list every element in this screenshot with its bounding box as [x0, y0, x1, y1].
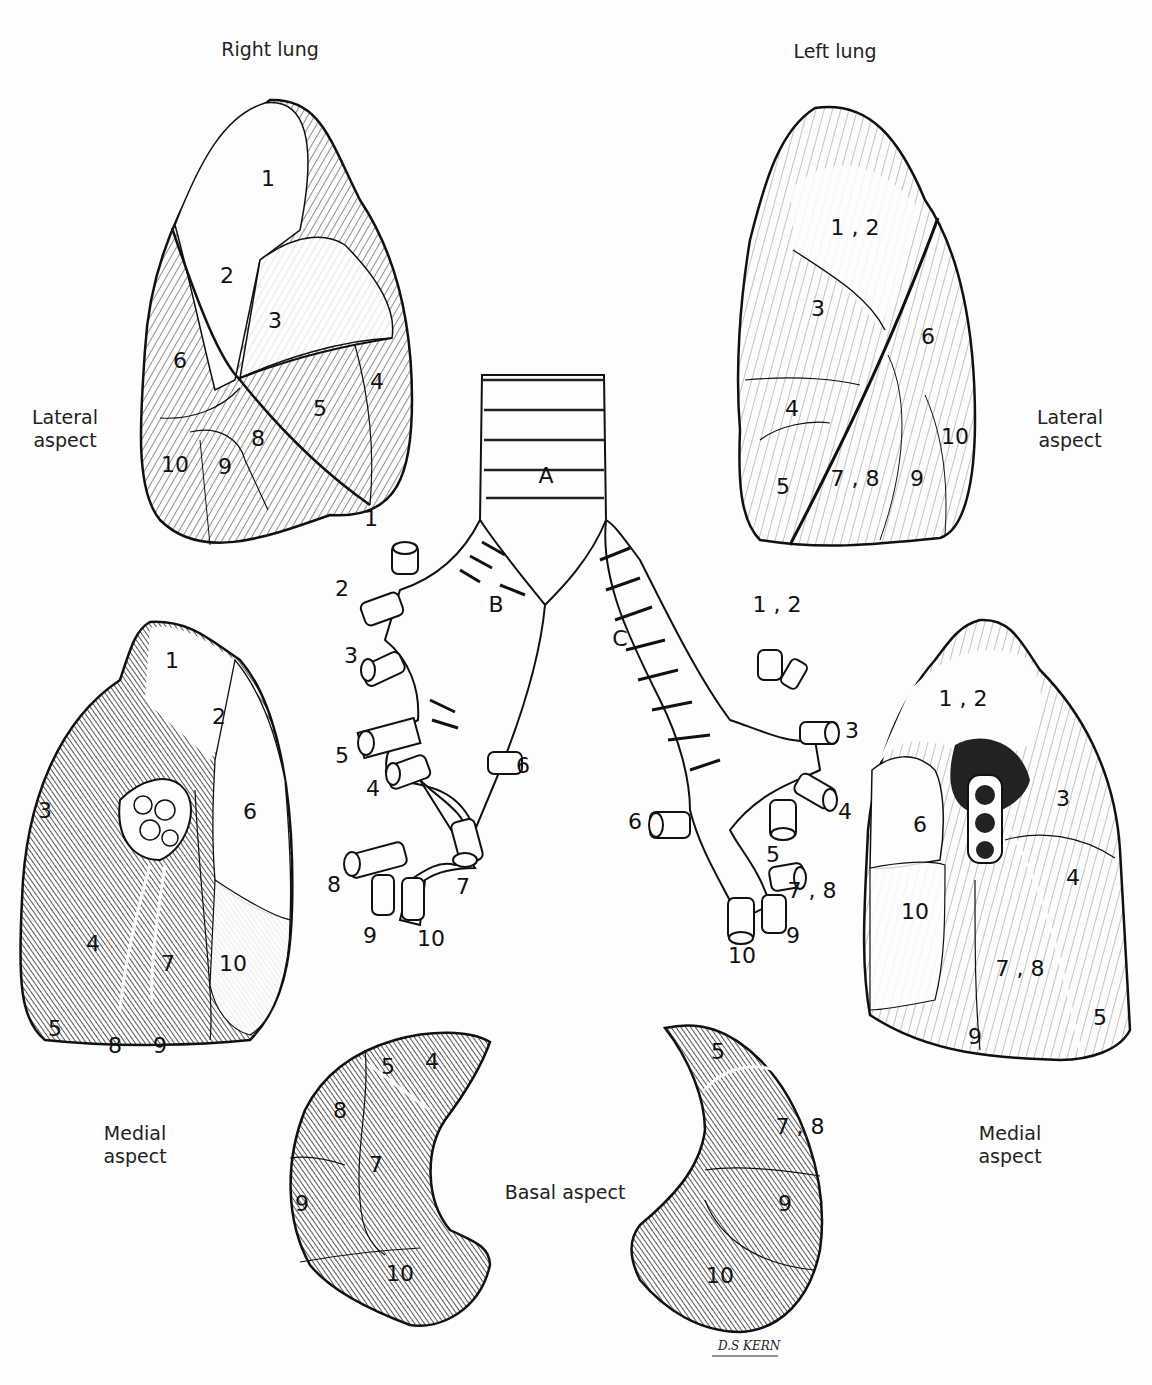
segment-number: 2 [335, 576, 349, 601]
segment-number: 3 [1056, 786, 1070, 811]
trachea-label: A [538, 463, 553, 488]
segment-number: 10 [706, 1263, 734, 1288]
left-main-bronchus-label: C [612, 626, 627, 651]
segment-number: 1 [261, 166, 275, 191]
segment-number: 5 [335, 743, 349, 768]
segment-number: 5 [776, 474, 790, 499]
segment-number: 4 [838, 799, 852, 824]
segment-number: 10 [941, 424, 969, 449]
segment-number: 4 [86, 931, 100, 956]
segment-number: 10 [386, 1261, 414, 1286]
right-main-bronchus-label: B [488, 592, 503, 617]
segment-number: 10 [219, 951, 247, 976]
segment-number: 3 [344, 643, 358, 668]
segment-number: 6 [628, 809, 642, 834]
segment-number: 1 [165, 648, 179, 673]
segment-number: 9 [786, 923, 800, 948]
segment-number: 3 [268, 308, 282, 333]
segment-number: 6 [516, 753, 530, 778]
segment-number: 10 [901, 899, 929, 924]
artist-signature: D.S KERN [717, 1339, 781, 1353]
segment-number: 7 [369, 1152, 383, 1177]
segment-number: 4 [366, 776, 380, 801]
segment-number: 6 [243, 799, 257, 824]
segment-number: 2 [220, 263, 234, 288]
segment-number: 4 [425, 1049, 439, 1074]
segment-number: 4 [370, 369, 384, 394]
segment-number: 5 [766, 842, 780, 867]
segment-number: 6 [921, 324, 935, 349]
segment-number: 6 [173, 348, 187, 373]
segment-number: 1 , 2 [753, 592, 802, 617]
anatomy-illustration: A B C 1236458910 1 , 23641057 , 89 12634… [0, 0, 1152, 1385]
segment-number: 8 [327, 872, 341, 897]
segment-number: 8 [333, 1098, 347, 1123]
segment-number: 5 [711, 1039, 725, 1064]
segment-number: 8 [251, 426, 265, 451]
segment-number: 5 [381, 1054, 395, 1079]
segment-number: 7 [161, 951, 175, 976]
segment-number: 1 , 2 [831, 215, 880, 240]
segment-number: 9 [910, 466, 924, 491]
segment-number: 9 [218, 454, 232, 479]
left-lung-medial [864, 620, 1130, 1060]
segment-number: 2 [212, 704, 226, 729]
segment-number: 3 [811, 296, 825, 321]
segment-number: 5 [313, 396, 327, 421]
segment-number: 7 , 8 [788, 878, 837, 903]
segment-number: 4 [785, 396, 799, 421]
segment-number: 9 [363, 923, 377, 948]
segment-number: 5 [1093, 1005, 1107, 1030]
segment-number: 7 , 8 [776, 1114, 825, 1139]
segment-number: 9 [295, 1191, 309, 1216]
segment-number: 6 [913, 812, 927, 837]
segment-number: 10 [728, 943, 756, 968]
segment-number: 10 [161, 452, 189, 477]
segment-number: 5 [48, 1016, 62, 1041]
segment-number: 9 [153, 1033, 167, 1058]
segment-number: 4 [1066, 865, 1080, 890]
segment-number: 7 , 8 [831, 466, 880, 491]
segment-number: 9 [968, 1024, 982, 1049]
segment-number: 7 , 8 [996, 956, 1045, 981]
segment-number: 3 [845, 718, 859, 743]
segment-number: 1 , 2 [939, 686, 988, 711]
segment-number: 8 [108, 1033, 122, 1058]
segment-number: 10 [417, 926, 445, 951]
segment-number: 7 [456, 874, 470, 899]
right-lung-medial [20, 622, 292, 1045]
segment-number: 1 [364, 506, 378, 531]
segment-number: 9 [778, 1191, 792, 1216]
segment-number: 3 [38, 798, 52, 823]
